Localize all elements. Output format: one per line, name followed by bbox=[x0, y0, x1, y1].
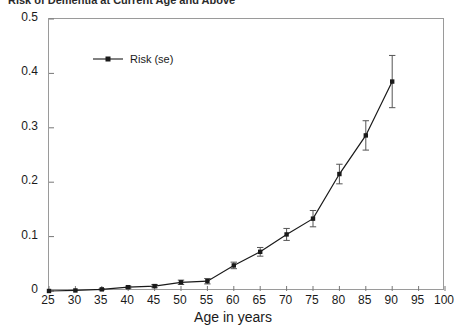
x-axis-label: Age in years bbox=[0, 309, 466, 325]
chart-title-clipped: Risk of Dementia at Current Age and Abov… bbox=[8, 0, 308, 7]
y-axis-tick-3: 0.3 bbox=[0, 119, 38, 133]
chart-legend: Risk (se) bbox=[93, 51, 173, 67]
figure-canvas: Risk of Dementia at Current Age and Abov… bbox=[0, 0, 466, 336]
plot-area: Risk (se) bbox=[48, 18, 444, 290]
legend-label-risk: Risk (se) bbox=[130, 53, 173, 65]
y-axis-tick-5: 0.5 bbox=[0, 10, 38, 24]
x-axis-tick-15: 100 bbox=[424, 293, 464, 307]
y-axis-tick-4: 0.4 bbox=[0, 64, 38, 78]
y-axis-tick-2: 0.2 bbox=[0, 173, 38, 187]
chart-title-text: Risk of Dementia at Current Age and Abov… bbox=[8, 0, 308, 6]
y-axis-tick-1: 0.1 bbox=[0, 228, 38, 242]
legend-marker-icon bbox=[93, 53, 123, 65]
